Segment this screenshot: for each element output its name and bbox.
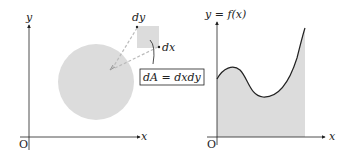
area-formula: dA = dxdy [143, 71, 201, 84]
x-axis-label: x [141, 130, 148, 143]
diagram-canvas: y x O dy dx dA = dxdy y = f(x) x O [0, 0, 351, 160]
dy-point [136, 26, 138, 28]
left-panel: y x O dy dx dA = dxdy [19, 11, 204, 151]
dx-point [158, 46, 160, 48]
area-under-curve [217, 28, 305, 137]
right-panel: y = f(x) x O [204, 8, 336, 151]
y-axis-label: y [25, 11, 33, 24]
dy-label: dy [132, 11, 146, 24]
dx-label: dx [162, 41, 176, 54]
x-axis-label: x [329, 130, 336, 143]
region-disk [58, 44, 134, 120]
origin-label: O [19, 138, 28, 151]
origin-label: O [207, 138, 216, 151]
function-label: y = f(x) [204, 8, 246, 21]
area-element-square [137, 26, 159, 48]
